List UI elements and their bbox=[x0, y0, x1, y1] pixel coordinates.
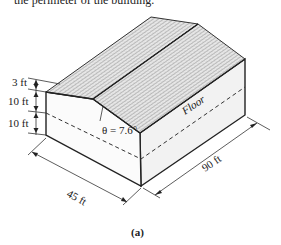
lower-wall-label: 10 ft bbox=[8, 117, 28, 129]
upper-wall-label: 10 ft bbox=[8, 95, 28, 107]
roof-height-label: 3 ft bbox=[12, 76, 27, 88]
building-diagram: 3 ft 10 ft 10 ft θ = 7.6° Floor 45 ft 90… bbox=[0, 0, 281, 245]
length-label: 90 ft bbox=[199, 152, 223, 173]
arrow-icon bbox=[121, 197, 127, 202]
angle-label: θ = 7.6° bbox=[102, 124, 137, 136]
width-label: 45 ft bbox=[65, 187, 89, 207]
figure-label: (a) bbox=[131, 226, 144, 239]
arrow-icon bbox=[32, 152, 38, 157]
